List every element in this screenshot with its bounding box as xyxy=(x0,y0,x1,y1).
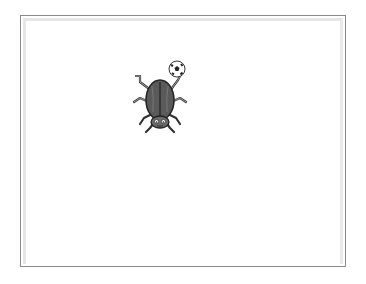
soccer-ball-icon xyxy=(168,60,186,78)
stage-canvas[interactable] xyxy=(23,18,343,264)
stage[interactable] xyxy=(20,15,346,267)
beetle-sprite[interactable] xyxy=(128,58,192,138)
